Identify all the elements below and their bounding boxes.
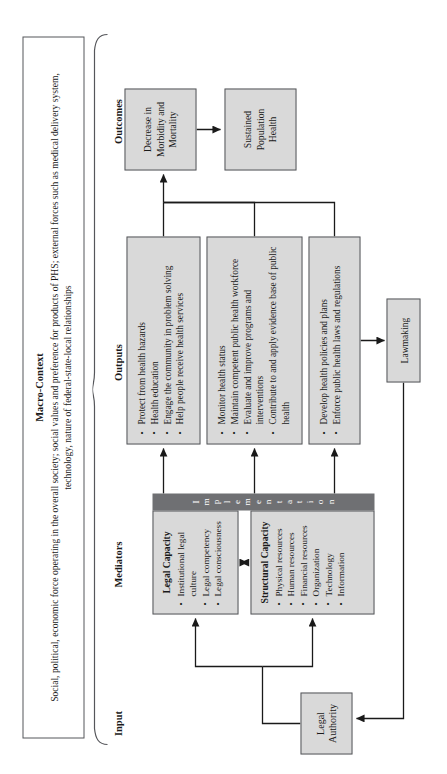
legal-capacity-list: Institutional legal culture Legal compet…	[174, 519, 224, 605]
column-header-outputs: Outputs	[112, 302, 123, 422]
legal-authority-box: Legal Authority	[300, 692, 352, 754]
outputs-group-2-box: Monitor health status Maintain competent…	[206, 236, 302, 444]
list-item: Maintain competent public health workfor…	[228, 246, 241, 434]
list-item: Financial resources	[297, 519, 309, 605]
list-item: Human resources	[284, 519, 296, 605]
outputs-group-3-list: Develop health policies and plans Enforc…	[317, 246, 343, 434]
macro-context-text: Social, political, economic force operat…	[48, 57, 73, 717]
diagram-canvas: Macro-Context Social, political, economi…	[0, 0, 447, 774]
structural-capacity-box: Structural Capacity Physical resources H…	[250, 510, 374, 614]
list-item: Legal consciousness	[211, 519, 223, 605]
list-item: Protect from health hazards	[135, 246, 148, 434]
legal-capacity-box: Legal Capacity Institutional legal cultu…	[152, 510, 238, 614]
list-item: Organization	[309, 519, 321, 605]
list-item: Evaluate and improve programs and interv…	[241, 246, 267, 434]
list-item: Enforce public health laws and regulatio…	[330, 246, 343, 434]
list-item: Help people receive health services	[173, 246, 186, 434]
implementation-band: Implementation	[152, 493, 374, 510]
structural-capacity-list: Physical resources Human resources Finan…	[272, 519, 347, 605]
list-item: Institutional legal culture	[174, 519, 199, 605]
list-item: Health education	[148, 246, 161, 434]
legal-capacity-title: Legal Capacity	[160, 519, 171, 605]
decrease-morbidity-mortality-label: Decrease in Morbidity and Mortality	[141, 101, 178, 156]
lawmaking-box: Lawmaking	[386, 298, 420, 382]
structural-capacity-title: Structural Capacity	[258, 519, 269, 605]
macro-context-title: Macro-Context	[33, 353, 44, 422]
outputs-group-1-list: Protect from health hazards Health educa…	[135, 246, 186, 434]
macro-context-box: Macro-Context Social, political, economi…	[22, 36, 84, 738]
column-header-input: Input	[112, 680, 123, 766]
legal-authority-label: Legal Authority	[314, 704, 339, 743]
lawmaking-label: Lawmaking	[398, 317, 409, 363]
list-item: Contribute to and apply evidence base of…	[266, 246, 292, 434]
outputs-group-2-list: Monitor health status Maintain competent…	[215, 246, 292, 434]
list-item: Information	[334, 519, 346, 605]
sustained-population-health-box: Sustained Population Health	[224, 88, 296, 170]
column-header-outcomes: Outcomes	[112, 56, 123, 186]
column-header-mediators: Mediators	[112, 504, 123, 624]
macro-context-brace	[92, 32, 108, 746]
list-item: Technology	[322, 519, 334, 605]
list-item: Engage the community in problem solving	[161, 246, 174, 434]
decrease-morbidity-mortality-box: Decrease in Morbidity and Mortality	[124, 88, 196, 170]
figure-rotation-wrapper: Macro-Context Social, political, economi…	[0, 0, 447, 774]
outputs-group-3-box: Develop health policies and plans Enforc…	[308, 236, 360, 444]
list-item: Monitor health status	[215, 246, 228, 434]
outputs-group-1-box: Protect from health hazards Health educa…	[126, 236, 200, 444]
list-item: Legal competency	[199, 519, 211, 605]
sustained-population-health-label: Sustained Population Health	[241, 108, 278, 150]
list-item: Develop health policies and plans	[317, 246, 330, 434]
list-item: Physical resources	[272, 519, 284, 605]
